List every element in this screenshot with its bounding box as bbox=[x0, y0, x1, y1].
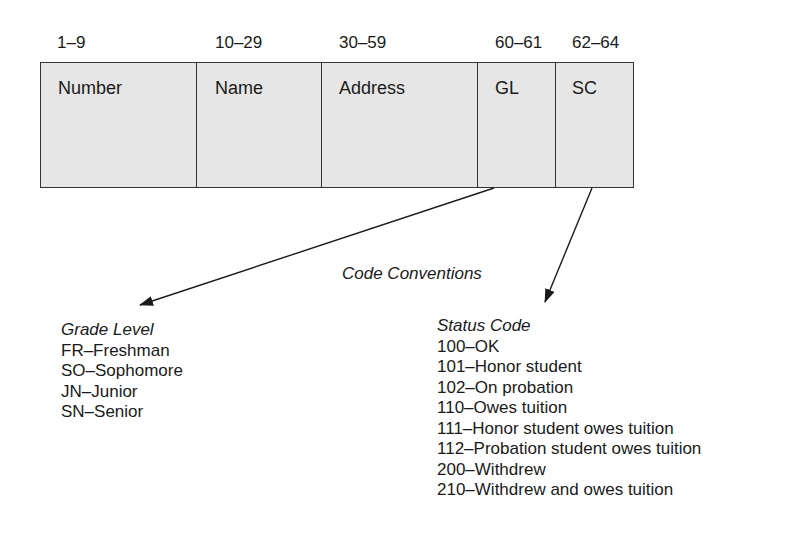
grade-level-item: SN–Senior bbox=[61, 402, 183, 423]
field-address: Address bbox=[322, 63, 478, 187]
field-gl: GL bbox=[478, 63, 556, 187]
field-number: Number bbox=[41, 63, 197, 187]
grade-level-legend: Grade Level FR–Freshman SO–Sophomore JN–… bbox=[61, 320, 183, 423]
field-name-address: Address bbox=[339, 77, 405, 99]
field-name-number: Number bbox=[58, 77, 122, 99]
status-code-item: 200–Withdrew bbox=[437, 460, 701, 481]
status-code-item: 111–Honor student owes tuition bbox=[437, 419, 701, 440]
field-name-gl: GL bbox=[495, 77, 519, 99]
grade-level-item: SO–Sophomore bbox=[61, 361, 183, 382]
position-label-gl: 60–61 bbox=[495, 33, 542, 53]
position-label-number: 1–9 bbox=[57, 33, 85, 53]
grade-level-item: FR–Freshman bbox=[61, 341, 183, 362]
status-code-item: 210–Withdrew and owes tuition bbox=[437, 480, 701, 501]
position-label-name: 10–29 bbox=[215, 33, 262, 53]
sc-arrow bbox=[545, 188, 592, 302]
record-layout: Number Name Address GL SC bbox=[40, 62, 634, 188]
grade-level-item: JN–Junior bbox=[61, 382, 183, 403]
field-name-sc: SC bbox=[572, 77, 597, 99]
position-label-address: 30–59 bbox=[339, 33, 386, 53]
status-code-title: Status Code bbox=[437, 316, 701, 337]
grade-level-title: Grade Level bbox=[61, 320, 183, 341]
code-conventions-title: Code Conventions bbox=[342, 264, 482, 284]
field-name: Name bbox=[197, 63, 322, 187]
status-code-item: 112–Probation student owes tuition bbox=[437, 439, 701, 460]
field-sc: SC bbox=[556, 63, 633, 187]
position-label-sc: 62–64 bbox=[572, 33, 619, 53]
field-name-name: Name bbox=[215, 77, 263, 99]
status-code-item: 110–Owes tuition bbox=[437, 398, 701, 419]
gl-arrow bbox=[140, 188, 494, 305]
status-code-legend: Status Code 100–OK 101–Honor student 102… bbox=[437, 316, 701, 501]
status-code-item: 101–Honor student bbox=[437, 357, 701, 378]
status-code-item: 100–OK bbox=[437, 337, 701, 358]
status-code-item: 102–On probation bbox=[437, 378, 701, 399]
